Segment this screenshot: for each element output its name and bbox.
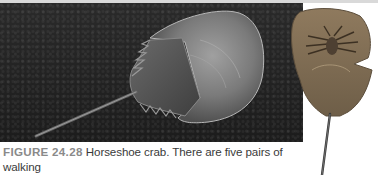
figure-label: FIGURE 24.28 [3, 145, 83, 158]
horseshoe-crab-dorsal-illustration [0, 3, 303, 142]
horseshoe-crab-top-photo [0, 3, 303, 142]
figure-caption: FIGURE 24.28 Horseshoe crab. There are f… [3, 144, 303, 175]
